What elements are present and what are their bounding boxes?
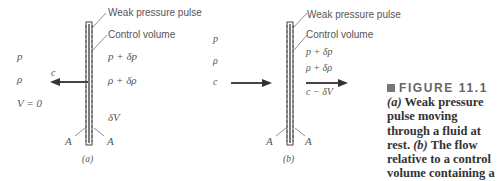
area-left-a: A (65, 135, 72, 147)
wave-speed-label-a: c (51, 67, 55, 78)
area-right-b: A (305, 135, 312, 147)
pressure-right-b: p + δp (306, 46, 332, 57)
area-left-b: A (266, 135, 273, 147)
control-volume-label-b: Control volume (306, 29, 373, 40)
velocity-right-b: c − δV (306, 86, 333, 97)
weak-pulse-label-a: Weak pressure pulse (108, 7, 202, 18)
density-left-a: ρ (17, 73, 22, 85)
control-volume-label-a: Control volume (108, 29, 175, 40)
caption-title: FIGURE 11.1 (399, 81, 488, 95)
pressure-left-b: p (213, 33, 218, 44)
caption-square-icon (387, 84, 395, 92)
panel-label-a: (a) (82, 154, 93, 164)
velocity-left-a: V = 0 (17, 97, 42, 109)
figure-caption: FIGURE 11.1 (a) Weak pressure pulse movi… (387, 81, 500, 181)
caption-b-label: (b) (413, 138, 428, 152)
density-left-b: ρ (213, 55, 218, 66)
area-right-a: A (107, 135, 114, 147)
delta-v-a: δV (108, 111, 120, 123)
pressure-right-a: p + δp (108, 50, 137, 62)
velocity-left-b: c (213, 76, 217, 87)
density-right-b: ρ + δρ (306, 62, 332, 73)
pressure-left-a: p (17, 50, 23, 62)
density-right-a: ρ + δρ (108, 74, 137, 86)
panel-label-b: (b) (283, 154, 294, 164)
weak-pulse-label-b: Weak pressure pulse (307, 9, 401, 20)
figure-11-1: Weak pressure pulse Control volume p ρ V… (0, 0, 500, 181)
caption-a-label: (a) (387, 95, 402, 109)
panel-a-graphics (50, 13, 107, 145)
